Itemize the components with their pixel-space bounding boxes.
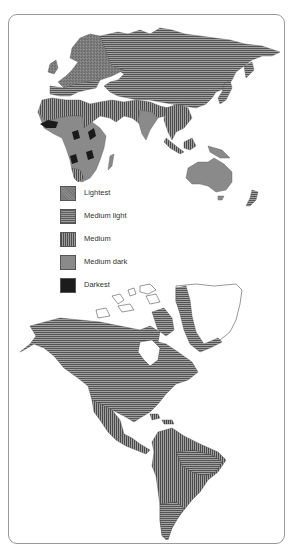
region-north-america (20, 318, 198, 422)
region-southern-cone (160, 502, 184, 540)
legend-swatch-darkest (60, 278, 76, 293)
region-borneo (184, 138, 196, 150)
legend-item-darkest: Darkest (60, 278, 180, 294)
legend-label: Lightest (84, 188, 110, 197)
legend-swatch-medium (60, 232, 76, 247)
legend-label: Medium light (84, 211, 127, 220)
region-british-isles (48, 60, 58, 74)
world-map (0, 0, 294, 552)
region-new-guinea (208, 146, 230, 158)
western-hemisphere (20, 284, 242, 540)
legend-swatch-lightest (60, 186, 76, 201)
legend-swatch-medium-light (60, 209, 76, 224)
region-new-zealand (246, 190, 258, 206)
region-tasmania (218, 196, 224, 200)
legend-item-medium: Medium (60, 232, 180, 248)
region-madagascar (108, 154, 114, 170)
legend-item-medium-light: Medium light (60, 209, 180, 225)
legend-label: Medium (84, 234, 111, 243)
legend-item-medium-dark: Medium dark (60, 255, 180, 271)
legend-swatch-medium-dark (60, 255, 76, 270)
legend-item-lightest: Lightest (60, 186, 180, 202)
eastern-hemisphere (38, 28, 280, 206)
region-central-america (116, 434, 150, 454)
region-indonesia (164, 138, 184, 154)
legend-label: Darkest (84, 280, 110, 289)
region-australia (186, 158, 232, 192)
region-caribbean (150, 414, 174, 424)
legend-label: Medium dark (84, 257, 127, 266)
region-southeast-asia (164, 104, 192, 140)
